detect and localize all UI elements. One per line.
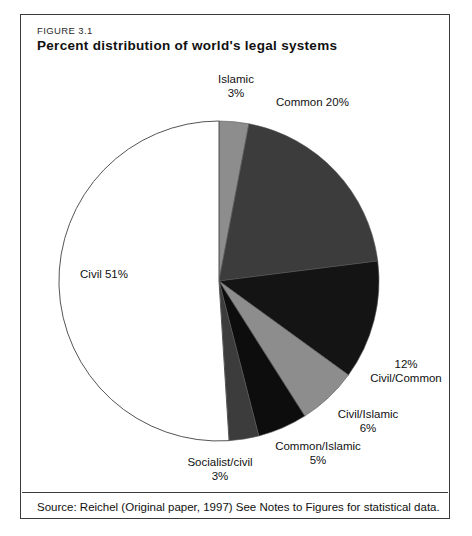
pie-label-islamic-value: 3% [181,86,291,100]
pie-label-civil-common: 12% Civil/Common [351,357,461,385]
source-note: Source: Reichel (Original paper, 1997) S… [37,501,440,513]
pie-label-common: Common 20% [276,95,436,109]
pie-label-socialist-civil-name: Socialist/civil [165,455,275,469]
pie-label-civil: Civil 51% [49,267,159,281]
pie-label-socialist-civil: Socialist/civil 3% [165,455,275,483]
pie-label-common-name: Common 20% [276,95,436,109]
source-divider [22,492,448,493]
pie-label-civil-islamic: Civil/Islamic 6% [313,407,423,435]
pie-label-civil-common-name: Civil/Common [351,371,461,385]
pie-label-civil-islamic-name: Civil/Islamic [313,407,423,421]
pie-label-civil-name: Civil 51% [49,267,159,281]
pie-chart: Islamic 3% Common 20% 12% Civil/Common C… [21,15,451,520]
pie-label-islamic: Islamic 3% [181,72,291,100]
pie-label-socialist-civil-value: 3% [165,469,275,483]
pie-label-civil-islamic-value: 6% [313,421,423,435]
pie-label-common-islamic-name: Common/Islamic [253,439,383,453]
figure-frame: FIGURE 3.1 Percent distribution of world… [20,14,450,519]
pie-label-islamic-name: Islamic [181,72,291,86]
pie-label-civil-common-value: 12% [351,357,461,371]
